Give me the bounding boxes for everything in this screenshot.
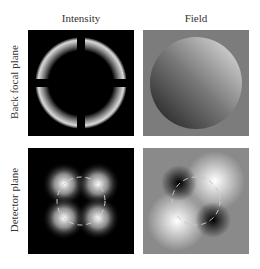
panel-detector-field: [143, 148, 249, 254]
column-title-field: Field: [143, 12, 249, 24]
row-label-detector-plane: Detector plane: [8, 147, 20, 253]
panel-bfp-intensity: [28, 30, 134, 136]
column-title-intensity: Intensity: [28, 12, 134, 24]
panel-detector-intensity: [28, 148, 134, 254]
row-label-back-focal-plane: Back focal plane: [8, 29, 20, 135]
panel-bfp-field: [143, 30, 249, 136]
